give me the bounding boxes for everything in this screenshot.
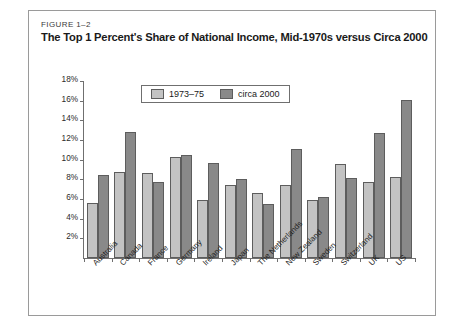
bar-group	[197, 81, 219, 258]
figure-title: The Top 1 Percent's Share of National In…	[41, 31, 431, 43]
y-axis-tick-mark	[80, 179, 84, 180]
bar-series2	[401, 100, 412, 258]
y-axis-tick-label: 10%	[62, 154, 78, 163]
bar-group	[390, 81, 412, 258]
x-axis-tick-mark	[305, 258, 306, 262]
x-axis-tick-mark	[112, 258, 113, 262]
x-axis-tick-mark	[250, 258, 251, 262]
bar-group	[114, 81, 136, 258]
legend-label-series2: circa 2000	[238, 89, 280, 99]
x-axis-tick-mark	[360, 258, 361, 262]
y-axis-tick-mark	[80, 101, 84, 102]
bar-group	[142, 81, 164, 258]
x-axis-tick-mark	[167, 258, 168, 262]
bar-series2	[291, 149, 302, 258]
y-axis-tick-mark	[80, 219, 84, 220]
bar-series1	[252, 193, 263, 258]
x-axis-tick-mark	[84, 258, 85, 262]
bar-series2	[125, 132, 136, 258]
figure-number: FIGURE 1–2	[41, 20, 91, 29]
y-axis-tick-label: 14%	[62, 114, 78, 123]
bar-series2	[181, 155, 192, 258]
y-axis-tick-mark	[80, 81, 84, 82]
x-axis-tick-mark	[387, 258, 388, 262]
x-axis-tick-mark	[139, 258, 140, 262]
y-axis-tick-mark	[80, 199, 84, 200]
figure-card: FIGURE 1–2 The Top 1 Percent's Share of …	[28, 10, 436, 316]
y-axis-tick-label: 2%	[66, 232, 78, 241]
legend-label-series1: 1973–75	[169, 89, 204, 99]
y-axis-line	[83, 81, 84, 259]
y-axis-tick-mark	[80, 120, 84, 121]
y-axis-tick-label: 4%	[66, 213, 78, 222]
bar-series1	[197, 200, 208, 258]
bar-series1	[335, 164, 346, 258]
legend-item-series2: circa 2000	[220, 89, 280, 99]
bar-group	[252, 81, 274, 258]
bar-series1	[142, 173, 153, 258]
chart-legend: 1973–75 circa 2000	[141, 85, 290, 103]
bar-series2	[374, 133, 385, 258]
y-axis-tick-label: 8%	[66, 173, 78, 182]
y-axis-tick-label: 18%	[62, 75, 78, 84]
x-axis-tick-mark	[194, 258, 195, 262]
bar-group	[87, 81, 109, 258]
x-axis-tick-mark	[277, 258, 278, 262]
legend-item-series1: 1973–75	[151, 89, 204, 99]
y-axis-tick-label: 16%	[62, 95, 78, 104]
legend-swatch-series1	[151, 89, 164, 99]
y-axis-tick-mark	[80, 140, 84, 141]
x-axis-tick-mark	[332, 258, 333, 262]
bar-group	[225, 81, 247, 258]
legend-swatch-series2	[220, 89, 233, 99]
bar-group	[363, 81, 385, 258]
y-axis-tick-label: 12%	[62, 134, 78, 143]
bar-series1	[87, 203, 98, 258]
y-axis-tick-label: 6%	[66, 193, 78, 202]
x-axis-tick-mark	[222, 258, 223, 262]
bar-series1	[225, 185, 236, 258]
bar-series1	[390, 177, 401, 258]
y-axis-tick-mark	[80, 238, 84, 239]
y-axis-tick-mark	[80, 160, 84, 161]
x-axis-tick-mark	[415, 258, 416, 262]
bar-group	[170, 81, 192, 258]
bar-group	[335, 81, 357, 258]
bar-series1	[170, 157, 181, 258]
chart-plot-region: 2%4%6%8%10%12%14%16%18% AustraliaCanadaF…	[41, 53, 423, 305]
